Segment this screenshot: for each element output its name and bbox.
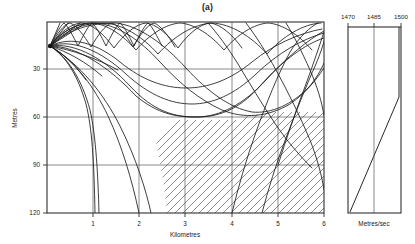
profile-tick-label-1470: 1470 [341, 13, 355, 20]
profile-tick-label-1485: 1485 [367, 13, 381, 20]
y-tick-label-90: 90 [33, 161, 41, 168]
x-tick-label-4: 4 [230, 220, 234, 227]
source-marker [48, 44, 52, 48]
x-tick-label-5: 5 [276, 220, 280, 227]
profile-plot-background [348, 27, 401, 213]
y-tick-label-30: 30 [33, 65, 41, 72]
x-tick-label-1: 1 [91, 220, 95, 227]
x-axis-label: Kilometres [170, 231, 200, 238]
profile-top-ticks [348, 23, 401, 27]
y-tick-label-60: 60 [33, 113, 41, 120]
ray-trace-figure: 1 2 3 4 5 6 30 60 90 120 Kilometres Metr… [0, 0, 415, 244]
y-tick-label-120: 120 [29, 209, 40, 216]
x-tick-label-3: 3 [183, 220, 187, 227]
x-tick-label-6: 6 [322, 220, 326, 227]
profile-axis-label: Metres/sec [358, 220, 390, 227]
figure-root: (a) [0, 0, 415, 244]
y-axis-label: Metres [11, 108, 18, 128]
x-tick-label-2: 2 [137, 220, 141, 227]
profile-tick-label-1500: 1500 [394, 13, 408, 20]
